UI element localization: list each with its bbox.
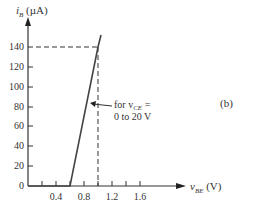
svg-text:140: 140 [9,41,24,52]
svg-text:80: 80 [14,101,24,112]
svg-text:0: 0 [19,180,24,191]
svg-text:60: 60 [14,120,24,131]
svg-text:40: 40 [14,140,24,151]
svg-text:1.2: 1.2 [106,191,119,202]
svg-text:100: 100 [9,81,24,92]
x-tick-labels: 0.4 0.8 1.2 1.6 [50,191,147,202]
y-tick-labels: 0 20 40 60 80 100 120 140 [9,41,24,191]
y-axis-label: iB (µA) [16,4,48,19]
annotation-arrow-icon [90,101,96,107]
ib-vbe-curve [28,35,101,186]
chart: 0 20 40 60 80 100 120 140 0.4 0.8 1.2 1.… [0,0,256,210]
annotation-line2: 0 to 20 V [114,111,152,122]
panel-label: (b) [220,97,233,110]
annotation-leader [93,104,112,106]
svg-text:0.4: 0.4 [50,191,63,202]
x-axis-label: vBE (V) [190,180,222,195]
svg-text:20: 20 [14,160,24,171]
y-axis-arrow-icon [25,17,31,26]
svg-text:1.6: 1.6 [134,191,147,202]
y-ticks [28,67,33,166]
svg-text:0.8: 0.8 [78,191,91,202]
x-axis-arrow-icon [176,183,186,189]
svg-text:120: 120 [9,61,24,72]
